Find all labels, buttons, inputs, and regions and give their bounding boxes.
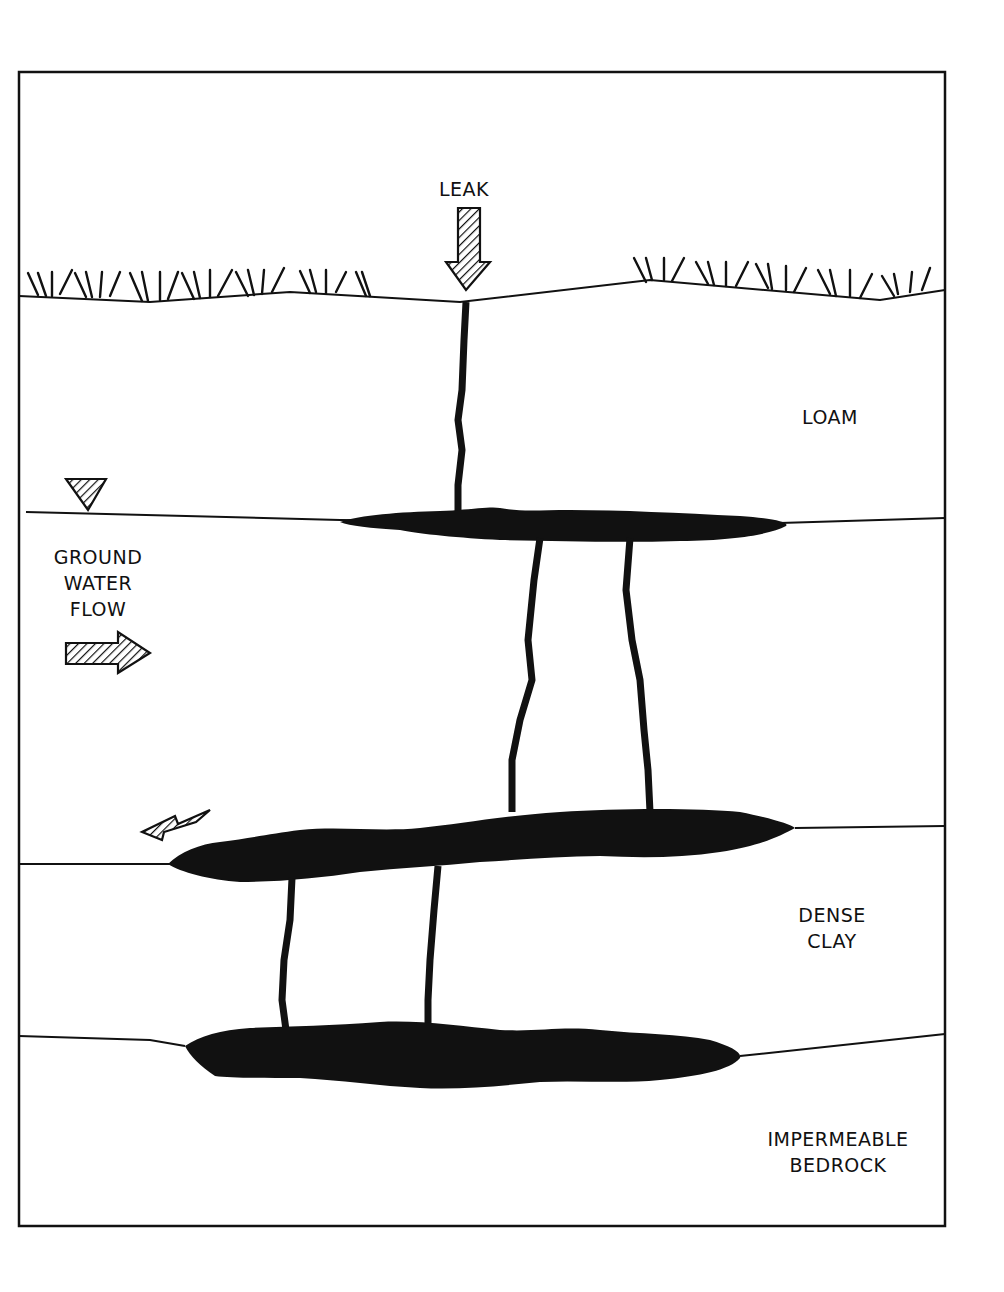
grass-left (28, 268, 370, 301)
dense-clay-label: DENSE CLAY (798, 904, 865, 952)
ground-water-flow-label: GROUND WATER FLOW (54, 546, 143, 620)
migration-arrow-icon (142, 810, 210, 840)
svg-text:GROUND: GROUND (54, 546, 143, 568)
svg-text:DENSE: DENSE (798, 904, 865, 926)
svg-text:WATER: WATER (64, 572, 133, 594)
leak-label: LEAK (439, 178, 489, 200)
crack-low-right (428, 866, 438, 1032)
water-table-marker-icon (66, 479, 106, 510)
contaminant-plume-middle (168, 809, 795, 882)
contaminant-plume-upper (340, 507, 787, 541)
svg-text:BEDROCK: BEDROCK (789, 1154, 886, 1176)
ground-water-flow-arrow-icon (66, 632, 150, 673)
ground-surface-line (19, 280, 945, 302)
svg-text:CLAY: CLAY (807, 930, 856, 952)
crack-mid-left (512, 538, 540, 812)
leak-crack-surface (458, 302, 466, 518)
bedrock-top-line-left (19, 1036, 185, 1046)
impermeable-bedrock-label: IMPERMEABLE BEDROCK (767, 1128, 908, 1176)
dense-clay-top-line-right (795, 826, 945, 828)
soil-leak-diagram: LEAK LOAM GROUND WATER FLOW DENSE CLAY I… (0, 0, 1004, 1292)
crack-low-left (282, 878, 292, 1030)
loam-label: LOAM (802, 406, 858, 428)
svg-text:FLOW: FLOW (70, 598, 127, 620)
svg-text:IMPERMEABLE: IMPERMEABLE (767, 1128, 908, 1150)
contaminant-plume-lower (185, 1022, 740, 1089)
bedrock-top-line-right (740, 1034, 945, 1056)
leak-arrow-icon (446, 208, 490, 290)
crack-mid-right (626, 538, 650, 812)
